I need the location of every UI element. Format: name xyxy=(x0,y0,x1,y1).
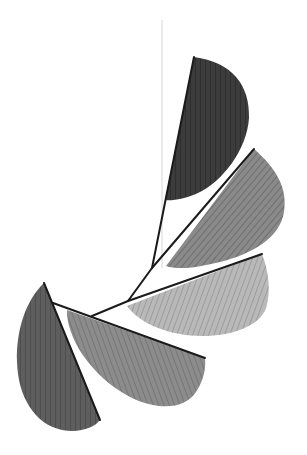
mobile-sculpture-scene xyxy=(0,0,307,455)
